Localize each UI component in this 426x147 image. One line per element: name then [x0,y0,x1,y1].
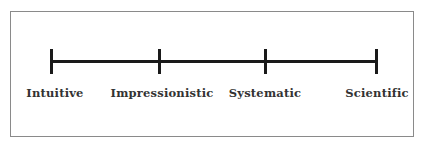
label-systematic: Systematic [229,86,301,100]
label-scientific: Scientific [345,86,408,100]
tick-impressionistic [158,49,161,74]
diagram-frame [10,11,414,137]
label-intuitive: Intuitive [26,86,83,100]
tick-scientific [375,49,378,74]
tick-intuitive [50,49,53,74]
label-impressionistic: Impressionistic [111,86,214,100]
continuum-line [51,60,377,63]
tick-systematic [264,49,267,74]
